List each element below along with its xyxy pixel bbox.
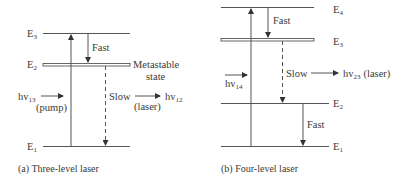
energy-level-line	[221, 39, 314, 42]
hv-emit-label: hv12	[165, 91, 183, 104]
level-label: E1	[333, 141, 343, 154]
slow-label: Slow	[109, 91, 131, 102]
panel-four-level-laser: E4 E3 E2 E1 Fast Slow hv23(laser) hv14	[221, 4, 391, 175]
fast-top-label: Fast	[273, 15, 291, 26]
hv-pump-label: hv13	[18, 91, 36, 104]
state-label: state	[146, 71, 166, 82]
level-e2-metastable: E2 Metastable state	[27, 59, 179, 82]
level-label: E2	[333, 98, 343, 111]
panel-three-level-laser: E3 E2 Metastable state E1 Fast Slow hv13…	[18, 28, 183, 175]
energy-level-line	[43, 64, 130, 67]
fast-label: Fast	[92, 42, 110, 53]
caption-three-level: (a) Three-level laser	[18, 163, 100, 175]
level-e3: E3	[27, 28, 130, 41]
level-label: E2	[27, 59, 37, 72]
level-e1: E1	[27, 141, 130, 154]
laser-label: (laser)	[134, 101, 161, 113]
fast-bottom-label: Fast	[307, 119, 325, 130]
metastable-label: Metastable	[133, 59, 179, 70]
level-label: E4	[333, 4, 343, 17]
hv-emit-label: hv23(laser)	[343, 68, 391, 81]
level-label: E3	[333, 36, 343, 49]
hv-pump-label: hv14	[225, 78, 243, 91]
slow-label: Slow	[286, 68, 308, 79]
level-label: E3	[27, 28, 37, 41]
level-e1: E1	[221, 141, 343, 154]
pump-label: (pump)	[36, 102, 67, 114]
laser-energy-level-diagram: E3 E2 Metastable state E1 Fast Slow hv13…	[0, 0, 411, 180]
caption-four-level: (b) Four-level laser	[221, 163, 299, 175]
level-label: E1	[27, 141, 37, 154]
